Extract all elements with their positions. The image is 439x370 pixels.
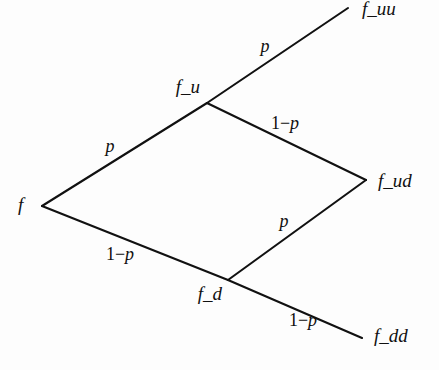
node-label-f-u: f_u <box>176 76 200 97</box>
edge-label-one-minus-p-up-updown: 1−p <box>271 113 299 133</box>
one-minus-prefix: 1− <box>106 244 125 264</box>
edge-label-one-minus-p-root-down: 1−p <box>106 244 134 264</box>
one-minus-prefix: 1− <box>289 310 308 330</box>
node-label-f-ud: f_ud <box>378 170 412 191</box>
node-label-f-d: f_d <box>198 283 223 304</box>
one-minus-prefix: 1− <box>271 113 290 133</box>
node-label-f-uu: f_uu <box>362 0 396 19</box>
edge-label-p-root-up: p <box>104 136 115 156</box>
figure-background <box>0 0 439 370</box>
node-label-f-dd: f_dd <box>374 325 408 346</box>
edge-label-one-minus-p-down-downdown: 1−p <box>289 310 317 330</box>
probability-variable: p <box>123 244 134 264</box>
binomial-tree-figure: f f_u f_d f_uu f_ud f_dd p p p 1−p 1−p 1… <box>0 0 439 370</box>
edge-label-p-down-updown: p <box>278 211 289 231</box>
edge-label-p-up-upup: p <box>259 36 270 56</box>
probability-variable: p <box>288 113 299 133</box>
probability-variable: p <box>306 310 317 330</box>
